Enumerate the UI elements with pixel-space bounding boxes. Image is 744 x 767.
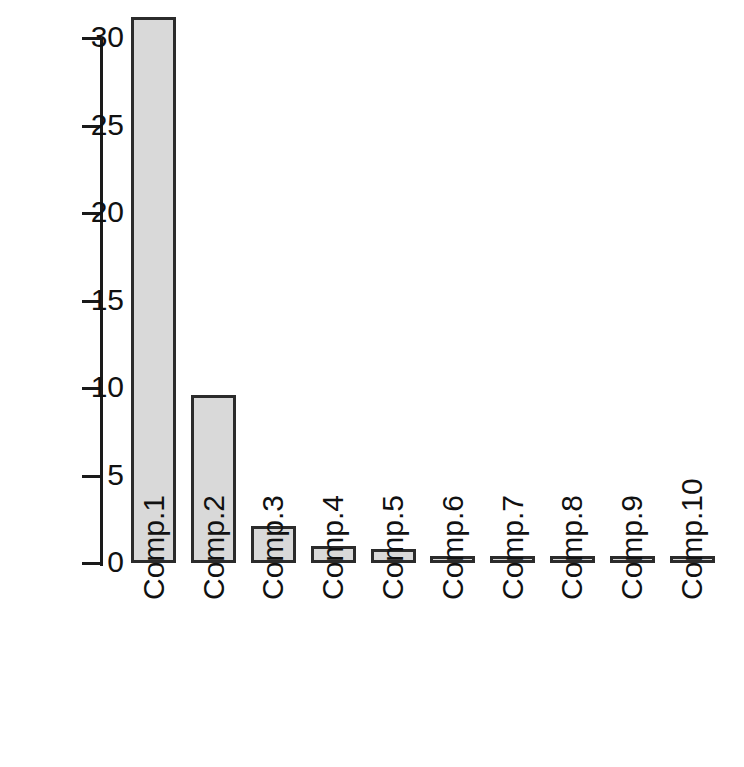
- y-axis-tick-label: 20: [50, 197, 124, 227]
- x-axis-label-slot: Comp.4: [303, 566, 363, 767]
- x-axis-tick-label: Comp.3: [258, 495, 288, 600]
- x-axis-label-slot: Comp.8: [543, 566, 603, 767]
- x-axis-tick-label: Comp.4: [318, 495, 348, 600]
- x-axis-label-slot: Comp.1: [124, 566, 184, 767]
- x-axis-labels: Comp.1Comp.2Comp.3Comp.4Comp.5Comp.6Comp…: [124, 566, 722, 767]
- x-axis-label-slot: Comp.9: [602, 566, 662, 767]
- y-axis: 051015202530: [0, 0, 124, 767]
- x-axis-label-slot: Comp.10: [662, 566, 722, 767]
- x-axis-tick-label: Comp.10: [677, 478, 707, 600]
- x-axis-label-slot: Comp.5: [363, 566, 423, 767]
- y-axis-tick-label: 30: [50, 22, 124, 52]
- x-axis-label-slot: Comp.6: [423, 566, 483, 767]
- x-axis-tick-label: Comp.2: [199, 495, 229, 600]
- x-axis-tick-label: Comp.6: [438, 495, 468, 600]
- bar-comp-1: [131, 17, 176, 563]
- x-axis-tick-label: Comp.1: [139, 495, 169, 600]
- y-axis-tick-label: 10: [50, 372, 124, 402]
- y-axis-tick-label: 0: [50, 547, 124, 577]
- x-axis-label-slot: Comp.3: [244, 566, 304, 767]
- x-axis-tick-label: Comp.8: [557, 495, 587, 600]
- x-axis-tick-label: Comp.9: [617, 495, 647, 600]
- y-axis-tick-label: 5: [50, 460, 124, 490]
- x-axis-label-slot: Comp.2: [184, 566, 244, 767]
- y-axis-tick-label: 25: [50, 110, 124, 140]
- x-axis-tick-label: Comp.5: [378, 495, 408, 600]
- y-axis-tick-label: 15: [50, 285, 124, 315]
- x-axis-tick-label: Comp.7: [498, 495, 528, 600]
- scree-plot-figure: 051015202530 Comp.1Comp.2Comp.3Comp.4Com…: [0, 0, 744, 767]
- x-axis-label-slot: Comp.7: [483, 566, 543, 767]
